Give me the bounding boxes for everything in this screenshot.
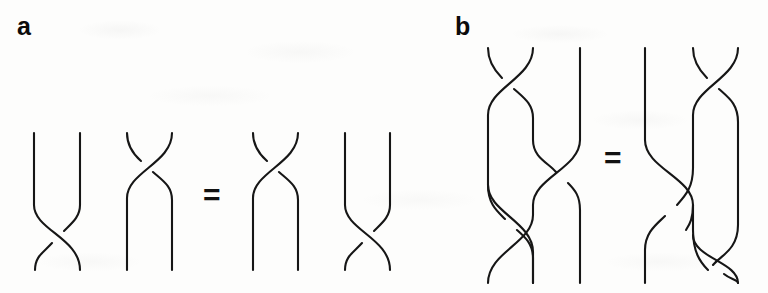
- strand-under-lower: [35, 243, 52, 270]
- strand-under-lower: [279, 172, 298, 270]
- figure-root: a b = =: [0, 0, 768, 293]
- strand-b-left-B-seg3: [568, 183, 580, 283]
- strand-b-right-C-seg2: [645, 216, 665, 283]
- braid-b-left-word: [488, 48, 580, 283]
- strand-over: [34, 133, 80, 270]
- strand-under-upper: [253, 133, 267, 161]
- braid-a-rhs-factor-1: [253, 133, 298, 270]
- braid-a-factor-2: [127, 133, 172, 270]
- braid-b-right-word: [645, 48, 738, 283]
- strand-b-right-C: [677, 48, 738, 205]
- strand-under-lower: [153, 172, 172, 270]
- strand-under-lower: [345, 243, 362, 270]
- strand-b-right-B-seg1: [693, 48, 707, 78]
- braid-a-rhs-factor-2: [345, 133, 390, 270]
- strand-b-right-A: [645, 48, 708, 270]
- strand-under-upper: [127, 133, 141, 161]
- strand-b-left-B-seg1: [488, 48, 502, 78]
- strand-b-right-B-seg2: [713, 89, 738, 265]
- strand-over: [345, 133, 390, 270]
- strand-under-upper: [64, 133, 80, 231]
- strand-b-left-A-under-lower: [517, 230, 533, 283]
- braid-a-factor-1: [34, 133, 80, 270]
- strand-b-left-A-under-upper: [488, 185, 505, 219]
- strand-b-left-C: [488, 48, 580, 283]
- strand-under-upper: [374, 133, 390, 231]
- strand-b-left-B-seg2: [514, 89, 556, 172]
- braid-diagram-canvas: [0, 0, 768, 293]
